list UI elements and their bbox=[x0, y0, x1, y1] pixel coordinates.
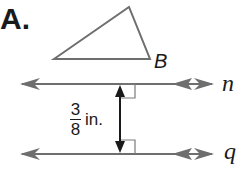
denominator: 8 bbox=[71, 121, 80, 138]
unit: in. bbox=[85, 110, 103, 130]
up-arrowhead-icon bbox=[115, 85, 125, 97]
line-label-n: n bbox=[222, 70, 234, 97]
numerator: 3 bbox=[71, 101, 80, 118]
parallel-lines-diagram bbox=[0, 0, 250, 177]
vertex-label-b: B bbox=[154, 50, 167, 73]
distance-arrow bbox=[115, 85, 125, 153]
line-label-q: q bbox=[224, 138, 236, 165]
down-arrowhead-icon bbox=[115, 141, 125, 153]
triangle bbox=[54, 7, 150, 59]
distance-label: 3 8 in. bbox=[70, 101, 103, 138]
fraction: 3 8 bbox=[70, 101, 81, 138]
